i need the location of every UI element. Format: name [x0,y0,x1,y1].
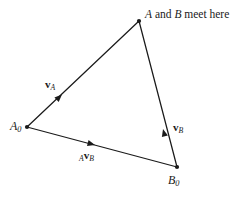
vertex-dot-b0 [175,165,179,169]
vertex-dot-a0 [25,125,29,129]
meet-point-caption: A and B meet here [145,9,229,21]
caption-object-a-symbol: A [145,8,152,20]
triangle-diagram-canvas [0,0,241,198]
vector-triangle-figure: A and B meet here A0 B0 vA vB AvB [0,0,241,198]
vertex-label-a0: A0 [10,120,22,132]
edge-a0-to-b0 [27,127,177,167]
vector-label-vb: vB [173,122,183,133]
edge-a0-to-meet [27,21,139,127]
vector-label-avb-subscript: B [89,154,94,163]
caption-meet-here-text: meet here [181,8,229,20]
edge-direction-arrowheads [54,92,167,148]
caption-conjunction: and [152,8,174,20]
vertex-label-b0: B0 [168,174,180,186]
vector-label-relative-avb: AvB [79,150,94,163]
vertex-label-b0-subscript: 0 [175,179,179,188]
vector-label-va-subscript: A [51,83,56,92]
vertex-label-a0-subscript: 0 [17,125,21,134]
vector-label-va: vA [45,79,55,90]
vector-label-vb-subscript: B [179,126,184,135]
arrowhead-avb [87,140,96,148]
triangle-edges [27,21,177,167]
edge-b0-to-meet [139,21,177,167]
vertex-dot-meet [137,19,141,23]
